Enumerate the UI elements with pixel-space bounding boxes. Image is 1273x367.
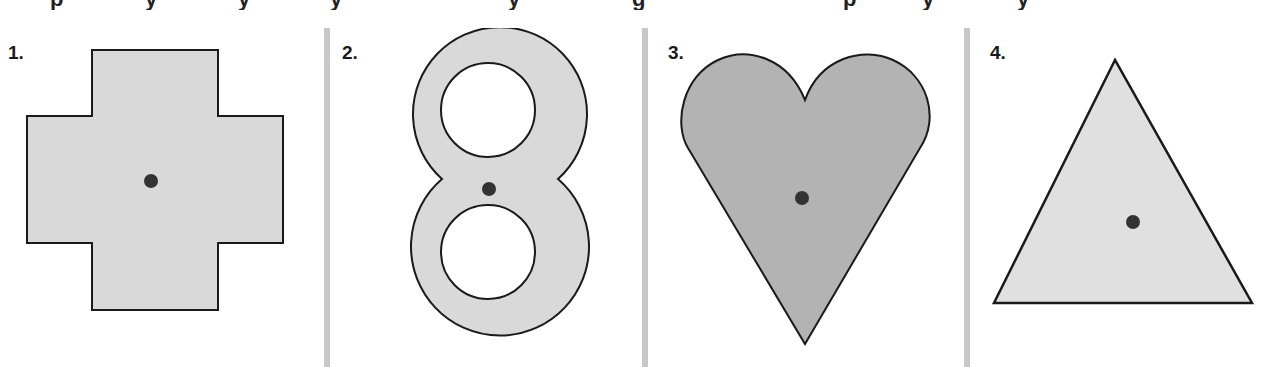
triangle-shape-icon: [970, 28, 1273, 367]
panel-cross: 1.: [0, 28, 324, 367]
panel-heart: 3.: [648, 28, 964, 367]
heart-shape-icon: [648, 28, 964, 367]
center-point: [1126, 215, 1140, 229]
cut-off-caption-text: p y y y y g p y y: [0, 0, 1273, 10]
center-point: [482, 182, 496, 196]
center-point: [795, 191, 809, 205]
panel-figure-eight: 2.: [330, 28, 642, 367]
center-point: [144, 174, 158, 188]
cross-shape-icon: [0, 28, 324, 367]
panel-triangle: 4.: [970, 28, 1273, 367]
figure-eight-shape-icon: [330, 28, 642, 367]
